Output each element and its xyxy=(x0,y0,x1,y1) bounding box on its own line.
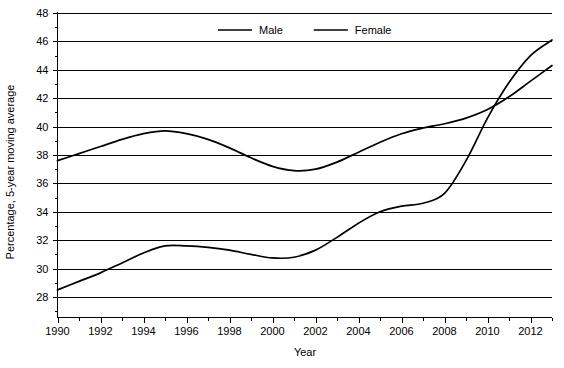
y-tick-label-38: 38 xyxy=(36,149,48,161)
y-axis-tick-labels: 4846444240383634323028 xyxy=(36,7,48,303)
line-chart: 4846444240383634323028 19901992199419961… xyxy=(0,0,564,368)
y-tick-label-46: 46 xyxy=(36,35,48,47)
chart-canvas: 4846444240383634323028 19901992199419961… xyxy=(0,0,564,368)
y-tick-label-32: 32 xyxy=(36,234,48,246)
y-tick-label-28: 28 xyxy=(36,291,48,303)
y-tick-label-36: 36 xyxy=(36,177,48,189)
x-tick-label-2000: 2000 xyxy=(260,325,284,337)
x-axis-title: Year xyxy=(294,346,317,358)
x-tick-label-1996: 1996 xyxy=(174,325,198,337)
y-tick-label-48: 48 xyxy=(36,7,48,19)
x-tick-label-1990: 1990 xyxy=(45,325,69,337)
x-tick-label-2002: 2002 xyxy=(303,325,327,337)
axis-ticks-group xyxy=(53,14,553,323)
chart-legend: MaleFemale xyxy=(218,24,391,36)
x-tick-label-1992: 1992 xyxy=(88,325,112,337)
y-tick-label-42: 42 xyxy=(36,92,48,104)
x-tick-label-2010: 2010 xyxy=(475,325,499,337)
x-tick-label-2012: 2012 xyxy=(518,325,542,337)
x-tick-label-2006: 2006 xyxy=(389,325,413,337)
legend-label-female: Female xyxy=(355,24,392,36)
x-tick-label-2008: 2008 xyxy=(432,325,456,337)
x-tick-label-1994: 1994 xyxy=(131,325,155,337)
y-tick-label-34: 34 xyxy=(36,206,48,218)
x-axis-tick-labels: 1990199219941996199820002002200420062008… xyxy=(45,325,542,337)
y-tick-label-30: 30 xyxy=(36,263,48,275)
data-series-group xyxy=(58,40,553,290)
y-axis-title: Percentage, 5-year moving average xyxy=(4,85,16,260)
y-tick-label-44: 44 xyxy=(36,64,48,76)
y-tick-label-40: 40 xyxy=(36,121,48,133)
x-tick-label-2004: 2004 xyxy=(346,325,370,337)
x-tick-label-1998: 1998 xyxy=(217,325,241,337)
legend-label-male: Male xyxy=(259,24,283,36)
series-line-female xyxy=(58,40,553,290)
